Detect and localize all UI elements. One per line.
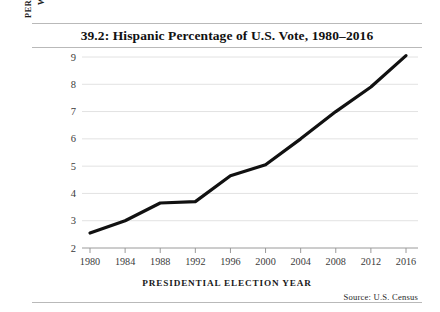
data-series-line bbox=[90, 56, 406, 233]
y-tick-label: 4 bbox=[71, 188, 77, 199]
x-tick-labels-group: 1980198419881992199620002004200820122016 bbox=[80, 256, 416, 267]
bottom-rule bbox=[32, 302, 422, 303]
line-chart: 23456789 1980198419881992199620002004200… bbox=[0, 0, 440, 312]
x-tick-label: 2012 bbox=[361, 256, 381, 267]
x-tick-label: 2008 bbox=[326, 256, 346, 267]
gridlines-group bbox=[82, 57, 418, 221]
y-tick-label: 7 bbox=[71, 106, 76, 117]
x-tick-label: 2000 bbox=[255, 256, 275, 267]
x-tick-label: 2004 bbox=[290, 256, 310, 267]
x-axis-title: PRESIDENTIAL ELECTION YEAR bbox=[32, 278, 422, 288]
y-tick-label: 5 bbox=[71, 161, 76, 172]
y-tick-label: 6 bbox=[71, 133, 76, 144]
source-note: Source: U.S. Census bbox=[344, 292, 418, 302]
x-tick-label: 1996 bbox=[220, 256, 240, 267]
x-tick-label: 1980 bbox=[80, 256, 100, 267]
y-tick-label: 2 bbox=[71, 243, 76, 254]
y-tick-labels-group: 23456789 bbox=[71, 52, 77, 254]
y-tick-label: 3 bbox=[71, 215, 76, 226]
x-tick-label: 1984 bbox=[115, 256, 135, 267]
x-axis-group bbox=[82, 248, 418, 253]
y-tick-label: 9 bbox=[71, 52, 76, 63]
figure-container: 39.2: Hispanic Percentage of U.S. Vote, … bbox=[0, 0, 440, 312]
x-tick-label: 1992 bbox=[185, 256, 205, 267]
x-tick-label: 2016 bbox=[396, 256, 416, 267]
x-tick-label: 1988 bbox=[150, 256, 170, 267]
y-tick-label: 8 bbox=[71, 79, 76, 90]
